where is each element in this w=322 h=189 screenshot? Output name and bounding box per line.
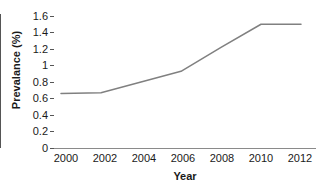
x-axis-title: Year — [54, 170, 316, 182]
line-chart-figure: Prevalance (%) 0 0.2 0.4 0.6 0.8 1 1.2 1… — [0, 0, 322, 189]
prevalence-line-series — [61, 24, 301, 93]
data-series-layer — [0, 0, 322, 189]
